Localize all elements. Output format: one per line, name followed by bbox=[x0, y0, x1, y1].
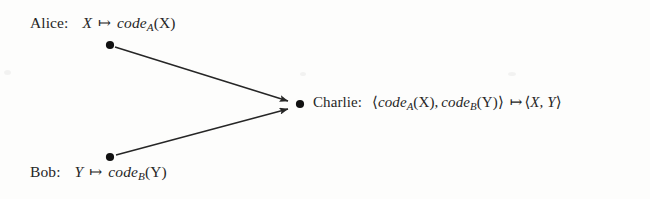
alice-code-arg: (X) bbox=[154, 14, 176, 31]
charlie-code-b-arg: (Y) bbox=[477, 94, 498, 110]
charlie-result-close: ⟩ bbox=[556, 94, 562, 110]
alice-code-subscript: A bbox=[147, 21, 154, 33]
edge-bob-to-charlie bbox=[116, 109, 288, 155]
charlie-mapsto-icon: ↦ bbox=[508, 94, 525, 110]
bob-name: Bob: bbox=[30, 163, 61, 180]
alice-code-fn: code bbox=[117, 14, 147, 31]
edge-alice-to-charlie bbox=[115, 47, 288, 101]
node-dot-alice bbox=[106, 41, 114, 49]
charlie-code-b-subscript: B bbox=[470, 100, 477, 112]
charlie-code-b-fn: code bbox=[441, 94, 470, 110]
node-dot-bob bbox=[106, 153, 114, 161]
charlie-code-a-arg: (X), bbox=[413, 94, 438, 110]
node-label-bob: Bob: Y ↦ codeB(Y) bbox=[30, 164, 167, 182]
bob-mapsto-icon: ↦ bbox=[87, 163, 104, 180]
bob-code-arg: (Y) bbox=[145, 163, 167, 180]
charlie-pair-close: ⟩ bbox=[498, 94, 504, 110]
node-label-alice: Alice: X ↦ codeA(X) bbox=[30, 15, 176, 33]
charlie-code-a-fn: code bbox=[378, 94, 407, 110]
charlie-result-vars: X, Y bbox=[530, 94, 555, 110]
coding-diagram: Alice: X ↦ codeA(X) Bob: Y ↦ codeB(Y) Ch… bbox=[0, 0, 650, 199]
alice-input-var: X bbox=[82, 14, 92, 31]
alice-name: Alice: bbox=[30, 14, 68, 31]
bob-code-fn: code bbox=[108, 163, 138, 180]
bob-input-var: Y bbox=[75, 163, 84, 180]
alice-mapsto-icon: ↦ bbox=[96, 14, 113, 31]
node-dot-charlie bbox=[296, 100, 304, 108]
bob-code-subscript: B bbox=[138, 170, 145, 182]
node-label-charlie: Charlie: ⟨codeA(X),codeB(Y)⟩ ↦⟨X, Y⟩ bbox=[313, 95, 562, 111]
charlie-name: Charlie: bbox=[313, 94, 362, 110]
